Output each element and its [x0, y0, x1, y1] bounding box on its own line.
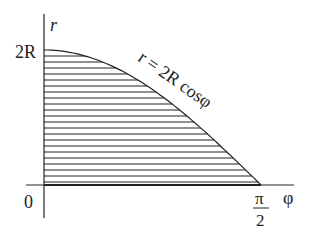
- y-tick-2r-label: 2R: [15, 42, 36, 62]
- curve-equation-label: r = 2R cosφ: [135, 47, 216, 112]
- diagram-canvas: r 2R 0 π 2 φ r = 2R cosφ: [0, 0, 316, 233]
- denominator-label: 2: [256, 211, 265, 230]
- phi-axis-label: φ: [283, 188, 293, 208]
- pi-numerator-label: π: [255, 189, 264, 208]
- origin-label: 0: [24, 192, 33, 212]
- r-axis-label: r: [50, 15, 58, 35]
